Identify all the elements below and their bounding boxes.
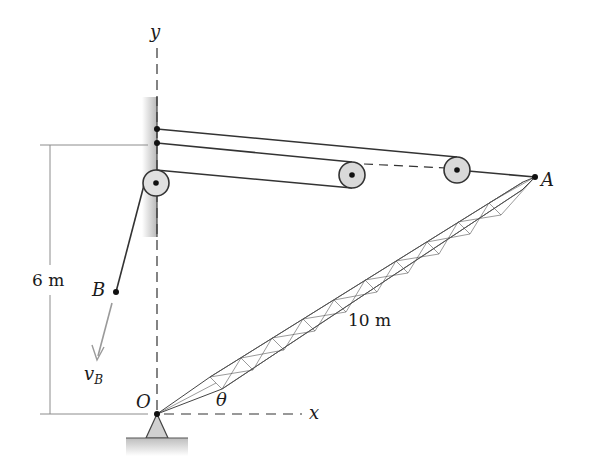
x-axis-label: x xyxy=(309,402,319,423)
crane-diagram: y x 6 m 10 m xyxy=(0,0,592,475)
point-B xyxy=(113,289,119,295)
point-A xyxy=(532,174,538,180)
wall-pin-upper xyxy=(154,126,160,132)
height-dimension-label: 6 m xyxy=(32,270,64,290)
cable-hidden xyxy=(364,164,446,168)
right-pulley xyxy=(444,157,470,183)
origin-label: O xyxy=(136,391,151,412)
middle-pulley xyxy=(339,162,365,188)
point-B-label: B xyxy=(91,279,105,300)
boom-length-label: 10 m xyxy=(348,310,391,330)
angle-label: θ xyxy=(216,389,227,410)
pin-support xyxy=(146,414,168,438)
boom xyxy=(157,177,535,414)
velocity-arrow xyxy=(92,303,112,360)
wall-pin-lower xyxy=(154,140,160,146)
point-A-label: A xyxy=(539,169,554,190)
y-axis-label: y xyxy=(149,21,161,42)
wall xyxy=(142,97,157,237)
cables xyxy=(116,129,535,292)
ground xyxy=(126,438,188,456)
wall-pulley xyxy=(143,170,169,196)
velocity-label: vB xyxy=(84,363,103,387)
point-O xyxy=(154,411,160,417)
